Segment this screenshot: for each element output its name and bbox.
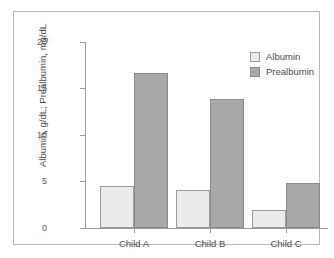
y-tick-label-0: 0 bbox=[7, 224, 47, 233]
legend-label-prealbumin: Prealbumin bbox=[266, 66, 314, 77]
x-tick-child-b bbox=[210, 229, 211, 233]
x-tick-child-a bbox=[134, 229, 135, 233]
bar-prealbumin-child-a bbox=[134, 73, 168, 228]
legend-item-albumin: Albumin bbox=[250, 50, 330, 63]
chart-frame: 20 15 10 5 0 Albumin, g/dL; Prealbumin, … bbox=[13, 11, 320, 245]
x-label-child-b: Child B bbox=[175, 238, 245, 249]
legend-swatch-prealbumin bbox=[250, 67, 260, 77]
y-tick-15 bbox=[80, 88, 85, 89]
y-tick-10 bbox=[80, 135, 85, 136]
bar-albumin-child-c bbox=[252, 210, 286, 228]
x-label-child-c: Child C bbox=[251, 238, 321, 249]
y-axis-line bbox=[85, 42, 86, 229]
x-label-child-a: Child A bbox=[99, 238, 169, 249]
bar-albumin-child-b bbox=[176, 190, 210, 228]
x-tick-child-c bbox=[286, 229, 287, 233]
y-tick-5 bbox=[80, 181, 85, 182]
y-tick-0 bbox=[80, 228, 85, 229]
x-axis-line bbox=[85, 228, 328, 229]
bar-albumin-child-a bbox=[100, 186, 134, 228]
legend-item-prealbumin: Prealbumin bbox=[250, 65, 330, 78]
y-tick-20 bbox=[80, 42, 85, 43]
bar-prealbumin-child-c bbox=[286, 183, 320, 228]
legend-swatch-albumin bbox=[250, 52, 260, 62]
bar-prealbumin-child-b bbox=[210, 99, 244, 228]
legend-label-albumin: Albumin bbox=[266, 51, 300, 62]
chart-legend: Albumin Prealbumin bbox=[250, 50, 330, 80]
chart-figure: 20 15 10 5 0 Albumin, g/dL; Prealbumin, … bbox=[0, 0, 334, 258]
y-axis-title: Albumin, g/dL; Prealbumin, mg/dL bbox=[37, 0, 48, 196]
